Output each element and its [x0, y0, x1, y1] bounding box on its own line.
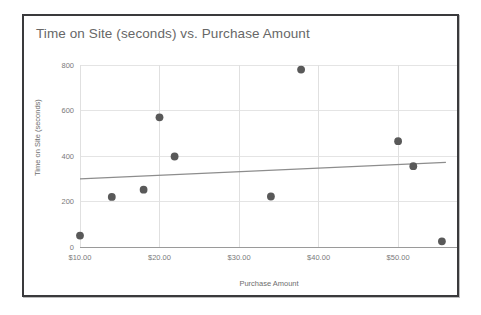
data-point: [140, 186, 148, 194]
svg-text:$20.00: $20.00: [148, 253, 171, 262]
x-axis-tick-labels: $10.00$20.00$30.00$40.00$50.00: [69, 253, 410, 262]
svg-text:200: 200: [61, 197, 74, 206]
data-point: [394, 137, 402, 145]
svg-text:$30.00: $30.00: [228, 253, 251, 262]
trendline: [80, 162, 446, 178]
svg-text:0: 0: [70, 243, 74, 252]
scatter-plot: 0200400600800 $10.00$20.00$30.00$40.00$5…: [24, 16, 461, 299]
svg-text:600: 600: [61, 106, 74, 115]
svg-text:$50.00: $50.00: [387, 253, 410, 262]
data-points: [76, 66, 446, 246]
data-point: [409, 162, 417, 170]
data-point: [438, 237, 446, 245]
chart-card: Time on Site (seconds) vs. Purchase Amou…: [22, 14, 459, 297]
svg-text:400: 400: [61, 152, 74, 161]
horizontal-gridlines: [80, 65, 457, 202]
y-axis-tick-labels: 0200400600800: [61, 61, 74, 252]
data-point: [297, 66, 305, 74]
data-point: [76, 232, 84, 240]
svg-text:$10.00: $10.00: [69, 253, 92, 262]
data-point: [108, 193, 116, 201]
svg-text:800: 800: [61, 61, 74, 70]
y-axis-title: Time on Site (seconds): [33, 99, 42, 176]
data-point: [267, 193, 275, 201]
data-point: [171, 153, 179, 161]
x-axis-title: Purchase Amount: [239, 279, 299, 288]
svg-text:$40.00: $40.00: [307, 253, 330, 262]
data-point: [156, 113, 164, 121]
